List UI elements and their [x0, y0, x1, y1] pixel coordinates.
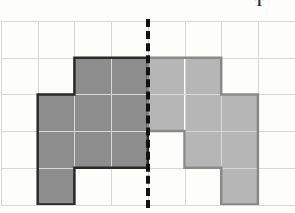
shaded-cell-left: [111, 58, 148, 95]
shaded-cell-right: [221, 131, 258, 168]
figure-root: T: [0, 0, 295, 213]
symmetry-line: [146, 19, 150, 208]
grid-line-vertical: [38, 21, 39, 205]
grid-line-vertical: [74, 21, 75, 205]
shaded-cell-left: [111, 94, 148, 131]
grid-line-vertical: [185, 21, 186, 205]
shaded-cell-left: [38, 131, 75, 168]
shaded-cell-left: [38, 94, 75, 131]
shaded-cell-right: [148, 94, 185, 131]
grid-line-vertical: [111, 21, 112, 205]
shaded-cell-left: [111, 131, 148, 168]
grid-line-vertical: [221, 21, 222, 205]
shaded-cell-right: [221, 94, 258, 131]
shaded-cell-right: [221, 168, 258, 205]
shaded-cell-right: [185, 131, 222, 168]
shaded-cell-left: [74, 131, 111, 168]
top-right-label-mark: T: [255, 0, 263, 8]
shaded-cell-right: [185, 58, 222, 95]
shaded-cell-left: [38, 168, 75, 205]
shaded-cell-right: [185, 94, 222, 131]
grid-line-vertical: [1, 21, 2, 205]
shaded-cell-right: [148, 58, 185, 95]
shaded-cell-left: [74, 94, 111, 131]
shaded-cell-left: [74, 58, 111, 95]
grid-plane: [1, 21, 295, 205]
grid-line-vertical: [258, 21, 259, 205]
